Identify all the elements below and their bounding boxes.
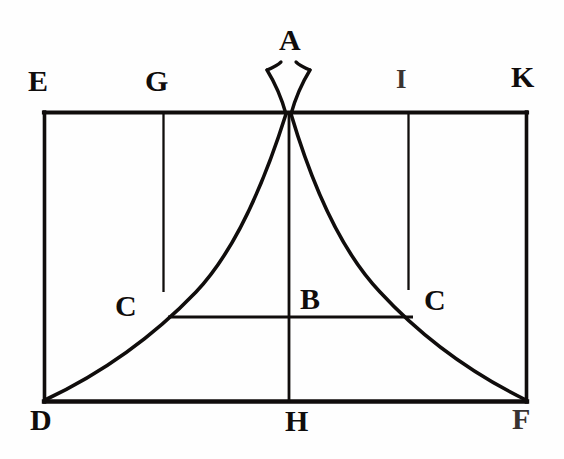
point-label-B: B xyxy=(300,284,320,314)
point-label-G: G xyxy=(145,66,168,96)
point-label-D: D xyxy=(30,405,52,435)
point-label-A: A xyxy=(279,25,301,55)
apex-tail-left xyxy=(267,70,286,114)
apex-tail-right xyxy=(291,70,310,114)
apex-tail-right-hook xyxy=(296,62,310,70)
geometric-figure: A E G I K C B C D H F xyxy=(0,0,564,459)
apex-tails xyxy=(267,62,310,114)
figure-drawing xyxy=(0,0,564,459)
point-label-E: E xyxy=(28,66,48,96)
point-label-C-left: C xyxy=(115,291,137,321)
apex-tail-left-hook xyxy=(267,62,281,70)
point-label-C-right: C xyxy=(424,285,446,315)
point-label-K: K xyxy=(511,62,534,92)
point-label-H: H xyxy=(285,406,308,436)
point-label-I: I xyxy=(396,66,407,93)
inner-vertical-lines xyxy=(164,112,409,402)
curve-left-DCA xyxy=(45,114,286,400)
point-label-F: F xyxy=(512,404,534,434)
